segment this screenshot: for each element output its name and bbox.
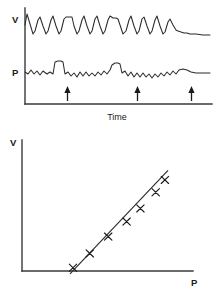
v-waveform-trace — [25, 14, 210, 35]
time-axis-label: Time — [107, 112, 127, 122]
scatter-marker — [86, 250, 93, 257]
v-axis-label: V — [12, 14, 19, 25]
timeseries-svg: V P Time — [0, 0, 217, 132]
event-arrow-1 — [64, 86, 70, 101]
scatter-x-axis-label: P — [191, 277, 198, 288]
scatter-marker — [152, 189, 159, 196]
p-waveform-trace — [25, 61, 210, 78]
p-axis-label: P — [12, 67, 19, 78]
scatter-marker — [161, 176, 168, 183]
scatter-panel: V P — [0, 132, 217, 291]
scatter-svg: V P — [0, 132, 217, 291]
timeseries-panel: V P Time — [0, 0, 217, 132]
scatter-fit-line — [70, 170, 168, 274]
figure-root: V P Time — [0, 0, 217, 291]
scatter-marker — [137, 205, 144, 212]
event-arrow-2 — [134, 86, 140, 101]
scatter-marker — [123, 218, 130, 225]
scatter-y-axis-label: V — [10, 137, 17, 148]
event-arrow-3 — [188, 86, 194, 101]
